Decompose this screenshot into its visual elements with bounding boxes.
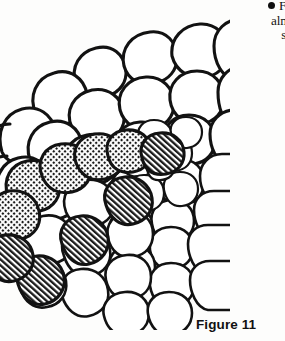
pine-cone-illustration (0, 0, 230, 330)
cone-scale-shaded-hatched (105, 177, 153, 225)
body-text-line-3: slan (206, 28, 285, 43)
cone-scale (190, 261, 230, 310)
cone-scale (103, 292, 149, 330)
pine-cone-svg (0, 0, 230, 330)
body-text-line-1: Fina (279, 0, 285, 13)
bullet-line: Fina (206, 0, 285, 14)
cone-scale-shaded-hatched (61, 216, 109, 265)
cone-scale (61, 269, 109, 317)
cone-scale (148, 292, 192, 330)
cone-scale-shaded-hatched (141, 133, 184, 174)
body-text-block: Fina almos slan (206, 0, 285, 43)
body-text-line-2: almos (206, 14, 285, 29)
figure-caption: Figure 11 (196, 317, 256, 332)
cone-scale-shaded-dotted (0, 191, 40, 240)
cone-scale-shaded-hatched (0, 235, 33, 282)
bullet-icon (268, 2, 275, 9)
figure-page: Fina almos slan Figure 11 (0, 0, 285, 341)
